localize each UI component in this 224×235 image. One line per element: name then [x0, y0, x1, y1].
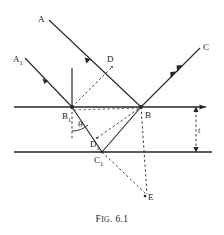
figure-caption: FIG. 6.1 [0, 214, 224, 224]
construction-b1-to-b [74, 108, 140, 110]
wavefront-b1-d [72, 67, 112, 107]
figure-container: A A1 C D D1 B B1 C1 E θ t FIG. 6.1 [0, 0, 224, 235]
incident-ray-a1 [25, 58, 72, 107]
label-point-c1-sub: 1 [100, 160, 103, 167]
wavefront-d1-b [97, 107, 141, 138]
arrowhead-top-surface [200, 105, 206, 110]
arrowhead-ray-c-inner [170, 71, 176, 78]
marker-point-b [139, 105, 143, 109]
incident-ray-a [49, 20, 141, 107]
label-point-e: E [148, 192, 154, 202]
label-point-d: D [107, 54, 114, 64]
label-ray-a: A [38, 14, 45, 24]
internal-ray-c1-b [102, 107, 141, 152]
label-point-b1-sub: 1 [68, 116, 71, 123]
marker-point-b1 [70, 105, 74, 109]
vertical-dashed-b-to-e [141, 107, 147, 194]
label-point-d1: D1 [90, 139, 100, 151]
label-point-b: B [145, 110, 151, 120]
marker-point-e [144, 195, 147, 198]
label-ray-a1: A1 [13, 54, 23, 66]
label-point-d1-sub: 1 [97, 144, 100, 151]
label-point-b1: B1 [62, 111, 71, 123]
marker-point-c1 [101, 151, 104, 154]
marker-point-d [111, 66, 113, 68]
virtual-ray-c1-e [102, 152, 146, 194]
arrowhead-ray-c-outer [177, 65, 183, 72]
label-angle-theta: θ [78, 120, 83, 129]
label-point-c1: C1 [94, 155, 103, 167]
label-ray-a1-sub: 1 [20, 59, 23, 66]
label-thickness: t [198, 126, 201, 135]
caption-number: . 6.1 [110, 214, 129, 224]
optics-ray-diagram: A A1 C D D1 B B1 C1 E θ t [0, 0, 224, 235]
label-ray-c: C [203, 42, 209, 52]
emergent-ray-c [141, 48, 200, 107]
caption-smallcaps: IG [101, 215, 110, 224]
